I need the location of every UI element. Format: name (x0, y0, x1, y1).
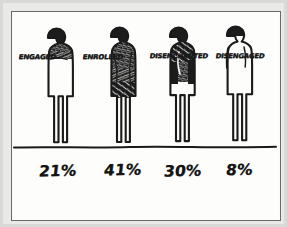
value-label-enrolled: 41% (103, 161, 142, 180)
page-mat: ENGAGED ENROLLED DISENCHANTED DISENGAGED… (3, 3, 284, 224)
pictogram-figure-engaged (40, 26, 82, 142)
category-label-engaged: ENGAGED (18, 53, 56, 61)
pictogram-figure-disenchanted (162, 25, 204, 141)
value-label-disenchanted: 30% (163, 162, 202, 181)
pictogram-figure-enrolled (104, 25, 146, 142)
value-label-disengaged: 8% (225, 161, 254, 180)
value-label-engaged: 21% (38, 162, 77, 181)
pictogram-figure-disengaged (220, 24, 262, 140)
chart-baseline (14, 147, 276, 148)
chart-plot-area: ENGAGED ENROLLED DISENCHANTED DISENGAGED… (11, 11, 281, 221)
category-label-disenchanted: DISENCHANTED (149, 53, 208, 60)
category-label-disengaged: DISENGAGED (215, 53, 265, 60)
category-label-enrolled: ENROLLED (82, 53, 124, 61)
figure-canvas: ENGAGED ENROLLED DISENCHANTED DISENGAGED… (0, 0, 287, 227)
pictogram-chart (12, 12, 278, 218)
